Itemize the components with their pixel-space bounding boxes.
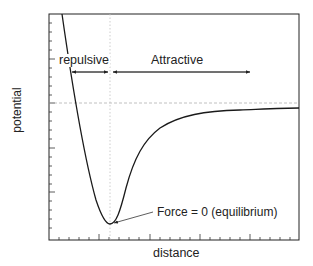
equilibrium-pointer-arrow — [114, 212, 153, 223]
attractive-label: Attractive — [151, 54, 203, 67]
equilibrium-annotation: Force = 0 (equilibrium) — [157, 206, 277, 218]
y-axis-ticks — [49, 23, 55, 228]
potential-diagram — [0, 0, 313, 266]
y-axis-label: potential — [11, 87, 23, 132]
repulsive-label: repulsive — [58, 54, 110, 67]
potential-curve — [62, 14, 299, 224]
x-axis-ticks — [59, 234, 290, 240]
x-axis-label: distance — [153, 247, 200, 260]
